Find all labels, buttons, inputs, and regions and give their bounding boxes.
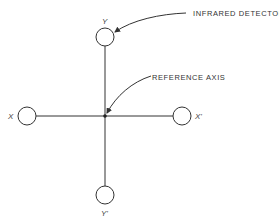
detector-diagram: Y Y' X X' INFRARED DETECTOR REFERENCE AX… <box>0 0 279 220</box>
detector-y-circle <box>96 28 114 46</box>
reference-axis-point <box>103 114 107 118</box>
reference-axis-arrow <box>107 76 151 113</box>
detector-x-prime-circle <box>173 107 191 125</box>
detector-x-circle <box>18 107 36 125</box>
infrared-detector-label: INFRARED DETECTOR <box>193 9 279 18</box>
label-x-prime: X' <box>194 112 202 121</box>
label-x: X <box>7 112 14 121</box>
infrared-detector-arrow <box>115 13 186 32</box>
detector-y-prime-circle <box>96 186 114 204</box>
label-y-prime: Y' <box>101 209 108 218</box>
reference-axis-label: REFERENCE AXIS <box>152 73 225 82</box>
label-y: Y <box>102 17 108 26</box>
